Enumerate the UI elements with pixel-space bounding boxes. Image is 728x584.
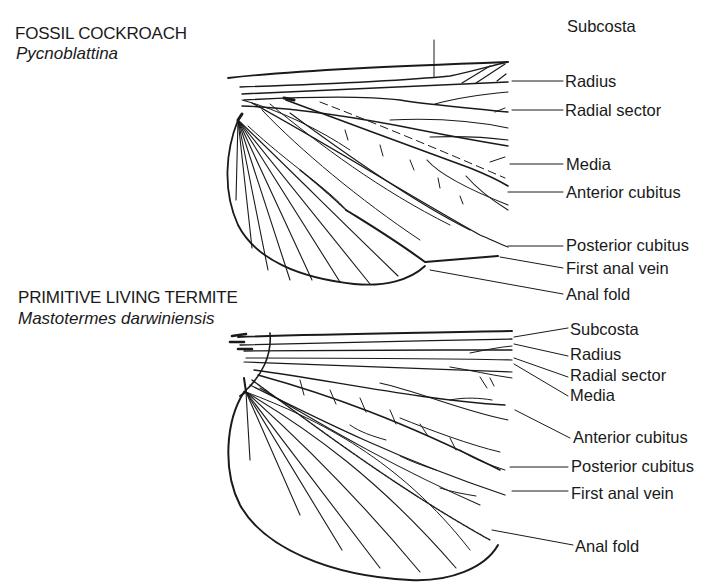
termite-wing-drawing bbox=[228, 328, 573, 580]
cockroach-wing-drawing bbox=[227, 40, 563, 294]
wing-diagrams bbox=[0, 0, 728, 584]
